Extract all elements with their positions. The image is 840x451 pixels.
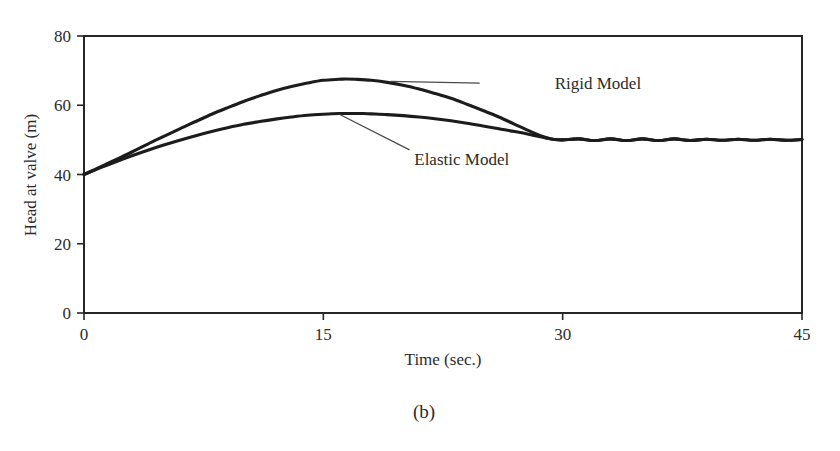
annotation-leader-line xyxy=(390,81,479,83)
x-tick-label: 15 xyxy=(315,325,332,344)
annotation-leader-line xyxy=(339,114,409,150)
y-tick-label: 40 xyxy=(54,166,71,185)
annotation-label: Elastic Model xyxy=(414,150,509,169)
x-axis-title: Time (sec.) xyxy=(405,350,482,369)
y-tick-label: 0 xyxy=(63,304,72,323)
y-axis-tick-labels: 020406080 xyxy=(54,27,71,323)
y-tick-label: 80 xyxy=(54,27,71,46)
figure-container: 020406080 0153045 Head at valve (m) Time… xyxy=(0,0,840,451)
y-tick-label: 20 xyxy=(54,235,71,254)
plot-frame xyxy=(84,36,802,313)
x-axis-tick-labels: 0153045 xyxy=(80,325,811,344)
annotation-label: Rigid Model xyxy=(555,74,642,93)
figure-caption: (b) xyxy=(413,401,435,423)
head-at-valve-chart: 020406080 0153045 Head at valve (m) Time… xyxy=(0,0,840,451)
x-axis-ticks xyxy=(84,313,802,320)
x-tick-label: 0 xyxy=(80,325,89,344)
y-axis-title: Head at valve (m) xyxy=(21,114,40,236)
y-tick-label: 60 xyxy=(54,96,71,115)
x-tick-label: 30 xyxy=(554,325,571,344)
x-tick-label: 45 xyxy=(794,325,811,344)
annotation-group: Rigid ModelElastic Model xyxy=(339,74,641,168)
